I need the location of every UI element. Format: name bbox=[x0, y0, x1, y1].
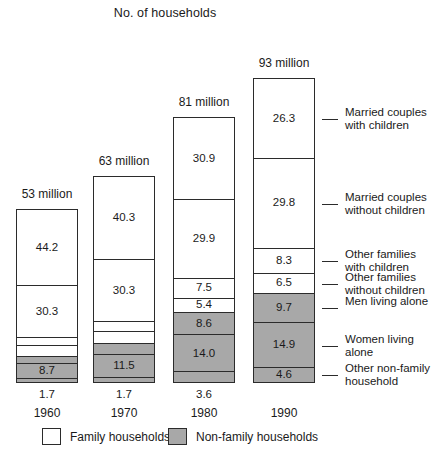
bar-segment: 4.6 bbox=[254, 368, 314, 382]
segment-value-label: 29.8 bbox=[273, 197, 295, 209]
column-total-label: 81 million bbox=[173, 95, 235, 109]
chart-title: No. of households bbox=[0, 6, 330, 20]
column-total-label: 53 million bbox=[16, 187, 78, 201]
below-bar-value-label: 1.7 bbox=[93, 388, 155, 400]
callout-leader-line bbox=[322, 119, 338, 120]
callout-leader-line bbox=[322, 284, 338, 285]
bar-segment: 5.6 bbox=[94, 344, 154, 355]
legend-item-family: Family households bbox=[42, 428, 170, 445]
segment-value-label: 14.9 bbox=[273, 339, 295, 351]
bar-segment: 30.3 bbox=[17, 286, 77, 338]
households-stacked-bar-chart: No. of households 53 million44.230.34.46… bbox=[0, 0, 434, 456]
category-label: Other non-family household bbox=[345, 362, 434, 388]
stacked-bar: 26.329.88.36.59.714.94.6 bbox=[253, 78, 315, 383]
chart-legend: Family households Non-family households bbox=[0, 428, 330, 448]
category-label: Married couples without children bbox=[345, 191, 434, 217]
bar-segment: 8.6 bbox=[174, 313, 234, 336]
legend-label-nonfamily: Non-family households bbox=[196, 430, 318, 444]
below-bar-value-label: 1.7 bbox=[16, 388, 78, 400]
segment-value-label: 8.6 bbox=[196, 318, 212, 330]
stacked-bar: 44.230.34.46.44.38.71.7 bbox=[16, 209, 78, 383]
bar-segment: 9.7 bbox=[254, 294, 314, 323]
segment-value-label: 26.3 bbox=[273, 113, 295, 125]
x-axis-year-label: 1980 bbox=[173, 406, 235, 420]
bar-segment: 7.5 bbox=[174, 279, 234, 299]
segment-value-label: 7.5 bbox=[196, 282, 212, 294]
bar-segment: 29.9 bbox=[174, 200, 234, 279]
bar-segment: 30.9 bbox=[174, 118, 234, 200]
bar-segment: 5.4 bbox=[174, 299, 234, 313]
callout-leader-line bbox=[322, 308, 338, 309]
bar-segment: 6.4 bbox=[17, 346, 77, 357]
category-label: Married couples with children bbox=[345, 106, 434, 132]
stacked-bar: 40.330.35.05.65.611.51.7 bbox=[93, 176, 155, 383]
category-label: Men living alone bbox=[345, 295, 434, 308]
bar-segment: 1.7 bbox=[17, 379, 77, 382]
bar-segment: 40.3 bbox=[94, 177, 154, 259]
callout-leader-line bbox=[322, 375, 338, 376]
bar-segment: 44.2 bbox=[17, 210, 77, 286]
segment-value-label: 8.7 bbox=[39, 365, 55, 377]
segment-value-label: 40.3 bbox=[113, 212, 135, 224]
segment-value-label: 30.3 bbox=[36, 306, 58, 318]
category-label: Other families without children bbox=[345, 271, 434, 297]
bar-segment: 8.3 bbox=[254, 249, 314, 274]
category-label: Women living alone bbox=[345, 333, 434, 359]
segment-value-label: 11.5 bbox=[113, 360, 135, 372]
below-bar-value-label: 3.6 bbox=[173, 388, 235, 400]
bar-segment: 4.4 bbox=[17, 338, 77, 346]
bar-segment: 14.9 bbox=[254, 323, 314, 368]
legend-swatch-family bbox=[42, 428, 61, 445]
segment-value-label: 8.3 bbox=[276, 255, 292, 267]
column-total-label: 93 million bbox=[253, 56, 315, 70]
bar-segment: 11.5 bbox=[94, 355, 154, 379]
column-total-label: 63 million bbox=[93, 154, 155, 168]
stacked-bar: 30.929.97.55.48.614.03.6 bbox=[173, 117, 235, 383]
segment-value-label: 30.3 bbox=[113, 285, 135, 297]
x-axis-year-label: 1990 bbox=[253, 406, 315, 420]
segment-value-label: 6.5 bbox=[276, 277, 292, 289]
callout-leader-line bbox=[322, 261, 338, 262]
segment-value-label: 9.7 bbox=[276, 302, 292, 314]
segment-value-label: 44.2 bbox=[36, 242, 58, 254]
segment-value-label: 30.9 bbox=[193, 153, 215, 165]
legend-item-nonfamily: Non-family households bbox=[168, 428, 318, 445]
x-axis-year-label: 1960 bbox=[16, 406, 78, 420]
bar-segment: 5.0 bbox=[94, 322, 154, 332]
bar-segment: 8.7 bbox=[17, 364, 77, 379]
bar-segment: 1.7 bbox=[94, 378, 154, 381]
bar-segment: 26.3 bbox=[254, 79, 314, 159]
bar-segment: 3.6 bbox=[174, 372, 234, 382]
segment-value-label: 14.0 bbox=[193, 348, 215, 360]
bar-segment: 5.6 bbox=[94, 332, 154, 343]
bar-segment: 29.8 bbox=[254, 159, 314, 249]
segment-value-label: 4.6 bbox=[276, 369, 292, 381]
callout-leader-line bbox=[322, 204, 338, 205]
x-axis-year-label: 1970 bbox=[93, 406, 155, 420]
legend-label-family: Family households bbox=[70, 430, 170, 444]
bar-segment: 4.3 bbox=[17, 357, 77, 364]
segment-value-label: 29.9 bbox=[193, 233, 215, 245]
legend-swatch-nonfamily bbox=[168, 428, 187, 445]
bar-segment: 14.0 bbox=[174, 335, 234, 372]
bar-segment: 30.3 bbox=[94, 260, 154, 322]
bar-segment: 6.5 bbox=[254, 274, 314, 294]
callout-leader-line bbox=[322, 346, 338, 347]
segment-value-label: 5.4 bbox=[196, 299, 212, 311]
